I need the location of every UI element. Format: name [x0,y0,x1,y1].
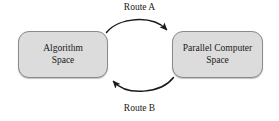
edge-route-a [107,20,167,33]
node-algorithm-space[interactable]: Algorithm Space [18,31,108,78]
node-parallel-computer-space-label-line2: Space [183,55,252,66]
edge-label-route-b: Route B [0,103,279,113]
node-algorithm-space-label-line1: Algorithm [43,43,83,54]
edge-route-b [114,78,174,92]
node-parallel-computer-space-label-line1: Parallel Computer [183,43,252,54]
edge-label-route-a: Route A [0,2,279,12]
node-parallel-computer-space-label: Parallel Computer Space [183,43,252,65]
diagram-canvas: Algorithm Space Parallel Computer Space … [0,0,279,121]
node-parallel-computer-space[interactable]: Parallel Computer Space [172,31,263,78]
node-algorithm-space-label-line2: Space [43,55,83,66]
node-algorithm-space-label: Algorithm Space [43,43,83,65]
